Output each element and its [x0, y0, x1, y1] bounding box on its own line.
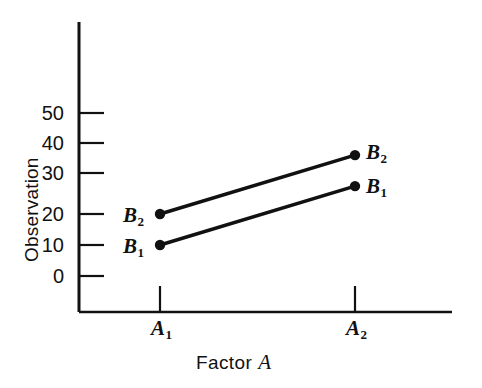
y-tick-marks — [79, 113, 104, 276]
series-line-b1 — [155, 181, 360, 250]
series-label-b1-right-sub: 1 — [381, 185, 388, 200]
x-tick-label-a1-sub: 1 — [166, 327, 173, 342]
series-label-b2-right-sub: 2 — [381, 151, 388, 166]
interaction-plot-figure: 50 40 30 20 10 0 Observation A1 A2 Facto… — [0, 0, 482, 388]
series-label-b1-right-base: B — [366, 174, 380, 198]
y-tick-label-0: 0 — [24, 266, 64, 286]
series-label-b1-left: B1 — [123, 236, 144, 257]
data-point-b2-a2 — [350, 150, 360, 160]
plot-canvas — [0, 0, 482, 388]
x-axis-title-word: Factor — [196, 352, 252, 373]
series-line-b2 — [155, 150, 360, 219]
x-axis-title-variable: A — [252, 350, 271, 374]
series-label-b2-left-sub: 2 — [138, 214, 145, 229]
x-axis-title: FactorA — [196, 352, 271, 373]
x-tick-label-a2-base: A — [346, 316, 360, 340]
x-tick-marks — [160, 286, 355, 312]
series-label-b2-left-base: B — [123, 203, 137, 227]
y-tick-label-40: 40 — [24, 133, 64, 153]
y-tick-label-50: 50 — [24, 103, 64, 123]
series-label-b1-right: B1 — [366, 176, 387, 197]
y-axis-title: Observation — [22, 157, 41, 262]
x-tick-label-a1: A1 — [151, 318, 172, 339]
data-point-b1-a2 — [350, 181, 360, 191]
series-label-b2-right: B2 — [366, 142, 387, 163]
x-tick-label-a2-sub: 2 — [361, 327, 368, 342]
data-point-b1-a1 — [155, 240, 165, 250]
series-label-b2-right-base: B — [366, 140, 380, 164]
series-label-b1-left-base: B — [123, 234, 137, 258]
data-point-b2-a1 — [155, 209, 165, 219]
series-label-b2-left: B2 — [123, 205, 144, 226]
x-tick-label-a1-base: A — [151, 316, 165, 340]
x-tick-label-a2: A2 — [346, 318, 367, 339]
series-label-b1-left-sub: 1 — [138, 245, 145, 260]
